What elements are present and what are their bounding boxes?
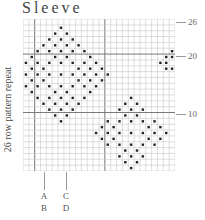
guide-line-ab bbox=[44, 172, 45, 190]
guide-line-cd bbox=[66, 172, 67, 190]
row-marker-10: 10 bbox=[176, 109, 197, 119]
guide-label-a: A bbox=[39, 191, 49, 201]
chart-title: Sleeve bbox=[22, 0, 83, 17]
guide-label-b: B bbox=[39, 203, 49, 213]
row-repeat-label: 26 row pattern repeat bbox=[2, 45, 13, 175]
knitting-chart-grid bbox=[23, 19, 175, 171]
guide-label-c: C bbox=[61, 191, 71, 201]
guide-label-d: D bbox=[61, 203, 71, 213]
row-marker-20: 20 bbox=[176, 51, 197, 61]
row-marker-26: 26 bbox=[176, 17, 197, 27]
